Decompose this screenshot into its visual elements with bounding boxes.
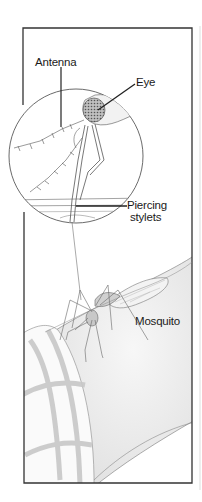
piercing-stylets-label-line1: Piercing xyxy=(127,199,167,211)
mosquito-label: Mosquito xyxy=(135,315,180,327)
compound-eye xyxy=(83,98,105,122)
eye-label: Eye xyxy=(136,76,155,88)
mosquito-diagram: Antenna Eye Piercing stylets Mosquito xyxy=(0,0,202,502)
arm-illustration xyxy=(20,255,195,490)
connector-line xyxy=(72,222,81,300)
antenna-label: Antenna xyxy=(35,56,76,68)
piercing-stylets-label-line2: stylets xyxy=(130,211,161,223)
